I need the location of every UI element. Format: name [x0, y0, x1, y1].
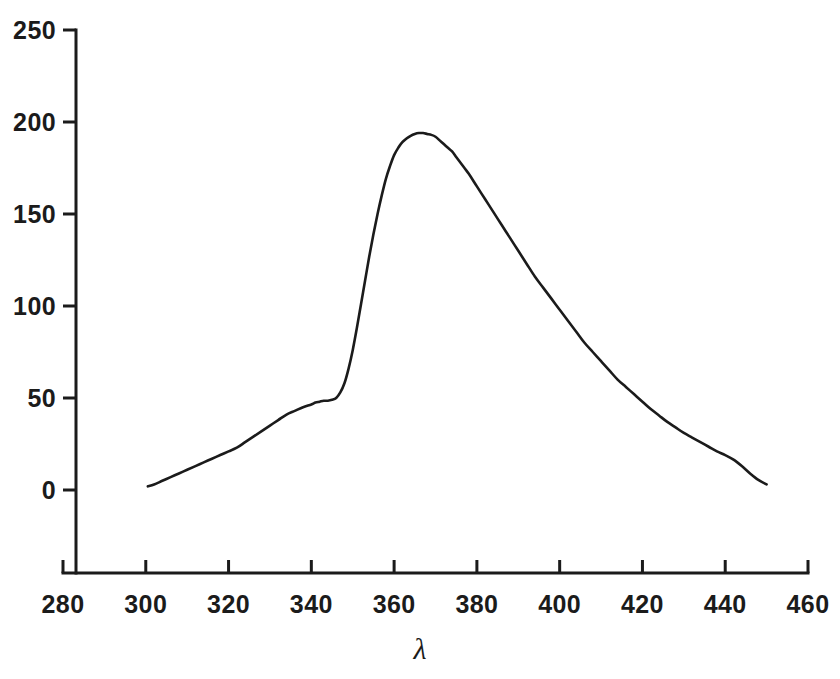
x-axis-tick-label: 360 [373, 592, 416, 617]
x-axis-tick-label: 380 [455, 592, 498, 617]
y-axis-tick-label: 250 [13, 18, 56, 43]
y-axis-tick-label: 100 [13, 294, 56, 319]
y-axis-tick-label: 0 [42, 478, 56, 503]
y-axis-tick-label: 50 [27, 386, 56, 411]
x-axis-tick-label: 400 [538, 592, 581, 617]
y-axis-tick-label: 150 [13, 202, 56, 227]
x-axis-tick-label: 420 [621, 592, 664, 617]
x-axis-tick-label: 340 [290, 592, 333, 617]
spectrum-curve [148, 133, 767, 486]
y-axis-tick-label: 200 [13, 110, 56, 135]
spectrum-figure: 250200150100500 280300320340360380400420… [0, 0, 840, 679]
plot-canvas [0, 0, 840, 679]
x-axis-tick-label: 280 [42, 592, 85, 617]
x-axis-title: λ [414, 634, 427, 664]
x-axis-tick-label: 440 [704, 592, 747, 617]
x-axis-tick-label: 460 [787, 592, 830, 617]
x-axis-tick-marks [63, 560, 808, 573]
y-axis-tick-marks [63, 30, 76, 490]
axis-lines [63, 30, 808, 573]
x-axis-tick-label: 300 [124, 592, 167, 617]
x-axis-tick-label: 320 [207, 592, 250, 617]
